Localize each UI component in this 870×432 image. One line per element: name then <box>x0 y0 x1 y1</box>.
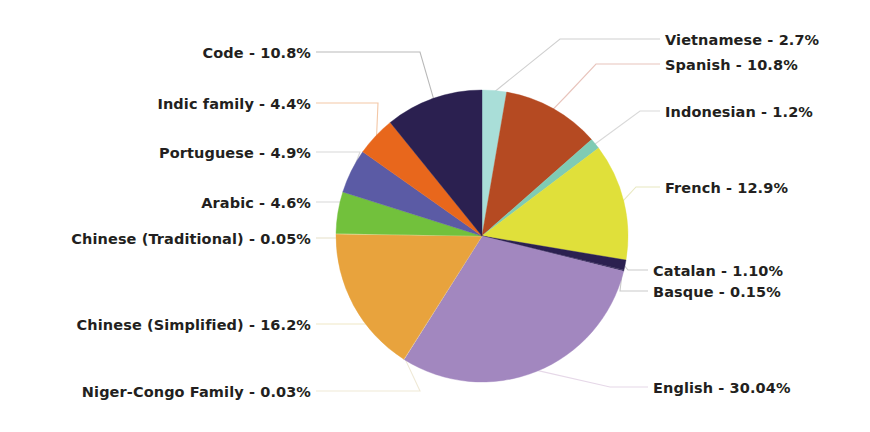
leader-line-basque <box>620 270 648 291</box>
pie-label-indic-family: Indic family - 4.4% <box>0 97 311 112</box>
leader-line-english <box>536 370 648 387</box>
pie-label-chinese-traditional: Chinese (Traditional) - 0.05% <box>0 232 311 247</box>
leader-line-spanish <box>553 64 660 110</box>
leader-line-french <box>622 187 660 202</box>
pie-label-chinese-simplified: Chinese (Simplified) - 16.2% <box>0 318 311 333</box>
leader-line-niger_congo <box>316 358 420 391</box>
leader-line-code <box>316 52 434 100</box>
pie-label-vietnamese: Vietnamese - 2.7% <box>665 33 819 48</box>
pie-label-arabic: Arabic - 4.6% <box>0 196 311 211</box>
pie-label-catalan: Catalan - 1.10% <box>653 264 783 279</box>
pie-slice-group <box>336 90 628 382</box>
pie-label-french: French - 12.9% <box>665 181 788 196</box>
pie-label-code: Code - 10.8% <box>0 46 311 61</box>
pie-label-indonesian: Indonesian - 1.2% <box>665 105 813 120</box>
pie-label-english: English - 30.04% <box>653 381 791 396</box>
leader-line-catalan <box>624 265 648 270</box>
pie-label-niger-congo-family: Niger-Congo Family - 0.03% <box>0 385 311 400</box>
pie-label-spanish: Spanish - 10.8% <box>665 58 798 73</box>
leader-line-indic_family <box>316 103 378 137</box>
pie-label-portuguese: Portuguese - 4.9% <box>0 146 311 161</box>
pie-chart-figure: Vietnamese - 2.7% Spanish - 10.8% Indone… <box>0 0 870 432</box>
leader-line-indonesian <box>594 111 660 145</box>
pie-label-basque: Basque - 0.15% <box>653 285 781 300</box>
